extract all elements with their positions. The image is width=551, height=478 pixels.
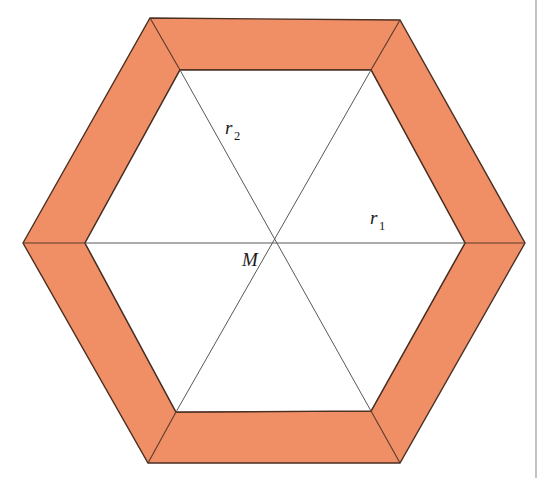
label-r2-base: r <box>225 117 233 138</box>
label-r1-subscript: 1 <box>379 219 385 233</box>
label-M: M <box>241 249 259 270</box>
figure-svg-canvas: r1r2M <box>0 0 551 478</box>
label-r2-subscript: 2 <box>234 129 240 143</box>
label-r1-base: r <box>370 207 378 228</box>
label-M-base: M <box>241 249 259 270</box>
hexagon-figure: r1r2M <box>0 0 551 478</box>
